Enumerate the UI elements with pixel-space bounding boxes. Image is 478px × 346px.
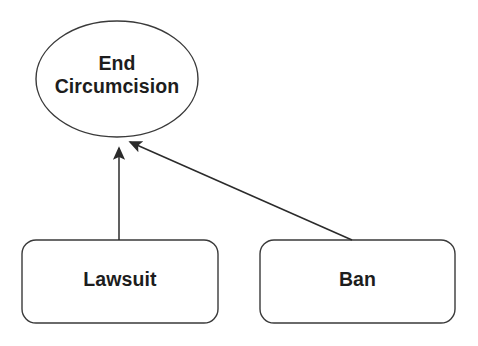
- node-ban-box[interactable]: [260, 240, 455, 323]
- diagram-canvas: End Circumcision Lawsuit Ban: [0, 0, 478, 346]
- diagram-svg: [0, 0, 478, 346]
- node-goal-ellipse[interactable]: [36, 21, 198, 137]
- node-lawsuit-box[interactable]: [22, 240, 218, 323]
- edge-ban-to-goal: [130, 142, 352, 240]
